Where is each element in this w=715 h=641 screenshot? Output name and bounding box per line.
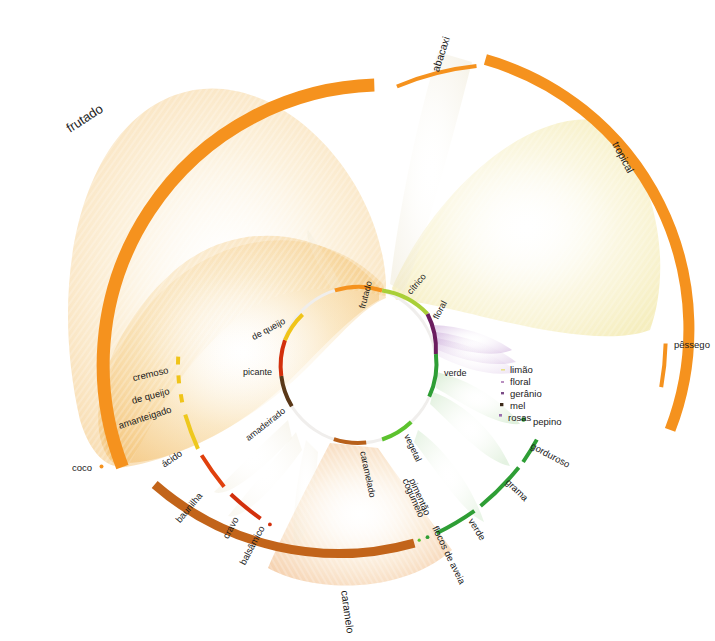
chord-diagram-svg: frutado cítrico floral verde vegetal car… <box>0 0 715 641</box>
outer-label-frutado-outer: frutado <box>63 101 105 136</box>
legend-label-geranio: gerânio <box>510 388 542 399</box>
outer-label-grama: grama <box>504 477 532 504</box>
micro-swatch-rosas[interactable] <box>499 414 502 417</box>
outer-arc-baunilha[interactable] <box>202 455 225 486</box>
legend-label-floral: floral <box>510 376 531 387</box>
micro-swatch-mel[interactable] <box>500 403 503 406</box>
legend: limão floral gerânio mel rosas <box>508 364 542 423</box>
outer-arc-flocos-de-aveia[interactable] <box>426 535 430 539</box>
legend-label-limao: limão <box>510 364 533 375</box>
outer-arc-balsamico[interactable] <box>268 523 272 527</box>
outer-arc-amanteigado[interactable] <box>181 394 182 402</box>
outer-label-caramelo: caramelo <box>339 590 357 635</box>
chord-diagram-canvas: frutado cítrico floral verde vegetal car… <box>0 0 715 641</box>
inner-arc-caramelado[interactable] <box>334 439 366 443</box>
inner-label-picante: picante <box>243 367 272 377</box>
outer-arc-pessego[interactable] <box>661 344 665 388</box>
outer-arc-pimentao[interactable] <box>418 539 421 542</box>
outer-label-verde-outer: verde <box>466 516 488 542</box>
outer-label-pessego: pêssego <box>674 339 710 350</box>
inner-arc-verde[interactable] <box>429 354 436 397</box>
legend-label-rosas: rosas <box>508 412 531 423</box>
outer-arc-de-queijo[interactable] <box>178 375 179 383</box>
outer-label-gorduroso: gorduroso <box>529 440 572 470</box>
ribbon-layer <box>68 52 660 586</box>
outer-label-pepino: pepino <box>533 416 562 427</box>
legend-label-mel: mel <box>510 400 525 411</box>
micro-swatch-limao[interactable] <box>501 369 505 371</box>
micro-swatch-geranio[interactable] <box>501 392 504 394</box>
inner-label-verde: verde <box>444 368 467 378</box>
outer-label-coco: coco <box>72 462 92 473</box>
micro-swatch-floral[interactable] <box>501 381 504 383</box>
outer-arc-coco[interactable] <box>100 465 104 469</box>
